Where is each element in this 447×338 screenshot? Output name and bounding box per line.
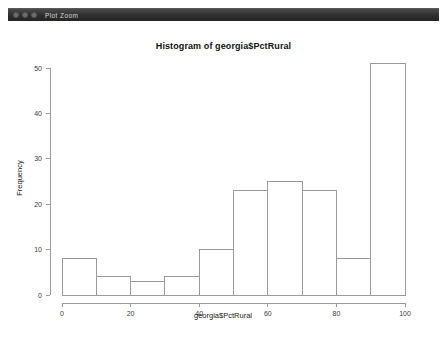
x-axis-tick-label: 100 — [399, 310, 411, 317]
y-axis-tick-label: 0 — [38, 292, 42, 299]
window-title: Plot Zoom — [45, 12, 78, 19]
histogram-bar — [302, 191, 336, 295]
window-left-margin — [0, 0, 8, 338]
histogram-bar — [165, 277, 199, 295]
histogram-bar — [268, 182, 302, 296]
x-axis-title: georgia$PctRural — [194, 311, 252, 320]
minimize-icon[interactable] — [22, 12, 28, 18]
x-axis-tick-label: 0 — [60, 310, 64, 317]
histogram-svg: 01020304050 020406080100 georgia$PctRura… — [8, 21, 439, 330]
histogram-bar — [131, 281, 165, 295]
histogram-bar — [199, 250, 233, 295]
x-axis-tick-label: 60 — [264, 310, 272, 317]
histogram-bar — [96, 277, 130, 295]
window-titlebar[interactable]: Plot Zoom — [8, 8, 439, 21]
y-axis-title: Frequency — [15, 160, 24, 196]
histogram-bar — [62, 259, 96, 295]
y-axis-tick-label: 30 — [34, 155, 42, 162]
y-axis-tick-label: 40 — [34, 110, 42, 117]
maximize-icon[interactable] — [31, 12, 37, 18]
y-axis-tick-label: 10 — [34, 246, 42, 253]
plot-canvas: Histogram of georgia$PctRural 0102030405… — [8, 21, 439, 330]
window-top-margin — [0, 0, 447, 8]
histogram-bar — [234, 191, 268, 295]
bars-group — [62, 64, 405, 296]
y-axis-tick-label: 50 — [34, 65, 42, 72]
window-controls — [13, 12, 37, 18]
x-axis-tick-label: 20 — [127, 310, 135, 317]
histogram-bar — [336, 259, 370, 295]
y-axis-tick-label: 20 — [34, 201, 42, 208]
plot-zoom-window: Plot Zoom Histogram of georgia$PctRural … — [0, 0, 447, 338]
x-axis-tick-label: 80 — [333, 310, 341, 317]
close-icon[interactable] — [13, 12, 19, 18]
y-axis: 01020304050 — [34, 65, 50, 299]
histogram-bar — [371, 64, 405, 296]
